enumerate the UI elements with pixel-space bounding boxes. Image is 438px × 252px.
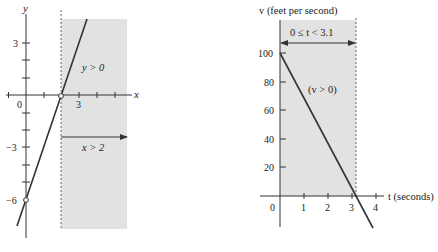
right-v-tick-20: 20 bbox=[264, 162, 274, 173]
left-tick-label-ym3: −3 bbox=[6, 142, 17, 153]
right-region-label: (v > 0) bbox=[308, 84, 337, 96]
right-chart: v (feet per second) t (seconds) 0 ≤ t < … bbox=[258, 5, 434, 228]
left-arrow-label: x > 2 bbox=[81, 142, 105, 153]
left-y-axis-label: y bbox=[22, 2, 28, 14]
right-t-tick-1: 1 bbox=[301, 202, 306, 213]
left-tick-label-ym6: −6 bbox=[6, 195, 17, 206]
figure-canvas: y x 0 3 3 −3 −6 y > 0 x > 2 bbox=[0, 0, 438, 252]
right-v-tick-80: 80 bbox=[264, 77, 274, 88]
right-v-tick-100: 100 bbox=[258, 48, 273, 59]
right-t-tick-0: 0 bbox=[270, 202, 275, 213]
left-tick-label-0: 0 bbox=[17, 99, 22, 110]
right-t-tick-3: 3 bbox=[349, 202, 354, 213]
left-x-axis-label: x bbox=[133, 88, 139, 100]
right-v-tick-40: 40 bbox=[264, 134, 274, 145]
left-point-x-intercept bbox=[59, 94, 64, 99]
left-region-label: y > 0 bbox=[81, 62, 105, 73]
right-interval-label: 0 ≤ t < 3.1 bbox=[290, 27, 333, 38]
right-t-axis-label: t (seconds) bbox=[388, 191, 434, 203]
left-shaded-region-lower bbox=[61, 109, 127, 229]
right-v-tick-60: 60 bbox=[264, 105, 274, 116]
left-chart: y x 0 3 3 −3 −6 y > 0 x > 2 bbox=[6, 2, 139, 238]
left-tick-label-x3: 3 bbox=[76, 99, 81, 110]
right-t-tick-2: 2 bbox=[325, 202, 330, 213]
left-tick-label-y3: 3 bbox=[13, 38, 18, 49]
right-shaded-region bbox=[280, 20, 356, 196]
right-v-axis-label: v (feet per second) bbox=[259, 5, 338, 17]
right-t-tick-4: 4 bbox=[373, 202, 378, 213]
left-point-y-intercept bbox=[24, 198, 29, 203]
